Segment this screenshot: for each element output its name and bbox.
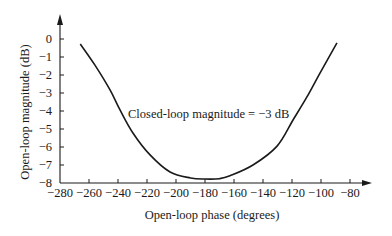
x-tick-label: −80 bbox=[340, 186, 360, 200]
x-tick-label: −260 bbox=[76, 186, 102, 200]
annotation-closed-loop-magnitude: Closed-loop magnitude = −3 dB bbox=[128, 107, 289, 121]
x-tick-label: −100 bbox=[308, 186, 334, 200]
y-tick-label: −2 bbox=[39, 68, 52, 82]
y-tick-label: −4 bbox=[39, 104, 53, 118]
x-tick-label: −240 bbox=[105, 186, 131, 200]
y-tick-label: −1 bbox=[39, 50, 52, 64]
y-tick-label: −3 bbox=[39, 86, 52, 100]
x-axis-title: Open-loop phase (degrees) bbox=[145, 208, 280, 222]
x-tick-label: −140 bbox=[250, 186, 276, 200]
x-tick-label: −180 bbox=[192, 186, 218, 200]
y-tick-label: 0 bbox=[46, 32, 52, 46]
y-tick-label: −7 bbox=[39, 158, 52, 172]
axes bbox=[57, 14, 372, 186]
y-axis-title: Open-loop magnitude (dB) bbox=[18, 44, 32, 179]
y-tick-label: −5 bbox=[39, 122, 52, 136]
nichols-chart: −280−260−240−220−200−180−160−140−120−100… bbox=[0, 0, 392, 236]
x-tick-label: −200 bbox=[163, 186, 189, 200]
y-tick-label: −6 bbox=[39, 140, 52, 154]
x-tick-label: −120 bbox=[279, 186, 305, 200]
x-axis-arrow-icon bbox=[362, 180, 372, 186]
x-tick-label: −220 bbox=[134, 186, 160, 200]
x-tick-label: −160 bbox=[221, 186, 247, 200]
y-axis-arrow-icon bbox=[57, 14, 63, 25]
y-tick-label: −8 bbox=[39, 176, 52, 190]
